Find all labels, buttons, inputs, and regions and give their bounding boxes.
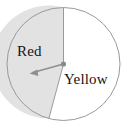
spinner-figure: Red Yellow [0,0,127,133]
sector-label-yellow: Yellow [64,72,108,87]
spinner-graphic [0,0,127,133]
spinner-hub [61,61,66,66]
sector-label-red: Red [17,44,42,59]
